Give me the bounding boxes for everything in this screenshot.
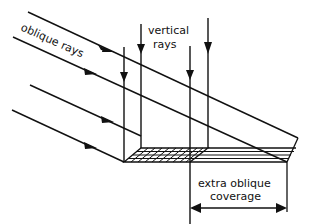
ray-coverage-diagram: oblique rays vertical rays extra oblique… bbox=[0, 0, 309, 224]
extra-coverage-label-line2: coverage bbox=[210, 190, 261, 203]
coverage-dimension bbox=[190, 203, 287, 213]
oblique-ray-2 bbox=[13, 37, 287, 162]
oblique-ray-4 bbox=[12, 110, 124, 162]
extra-coverage-label-line1: extra oblique bbox=[198, 177, 271, 190]
vertical-rays-label-line2: rays bbox=[153, 38, 177, 51]
vertical-rays-label-line1: vertical bbox=[148, 24, 189, 37]
